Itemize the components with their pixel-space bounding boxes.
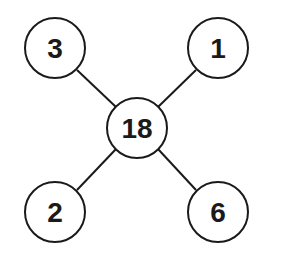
connector-top-left: [77, 70, 116, 107]
node-label: 2: [47, 197, 63, 228]
connector-top-right: [158, 70, 196, 107]
node-bottom-right: 6: [188, 182, 248, 242]
node-center: 18: [107, 98, 167, 158]
diagram-svg: 3 1 18 2 6: [0, 0, 281, 261]
number-diagram: 3 1 18 2 6: [0, 0, 281, 261]
connector-bottom-right: [158, 149, 196, 190]
node-label: 1: [210, 33, 226, 64]
node-top-left: 3: [25, 18, 85, 78]
node-top-right: 1: [188, 18, 248, 78]
node-bottom-left: 2: [25, 182, 85, 242]
center-label: 18: [121, 113, 152, 144]
node-label: 3: [47, 33, 63, 64]
connector-bottom-left: [77, 149, 116, 190]
node-label: 6: [210, 197, 226, 228]
